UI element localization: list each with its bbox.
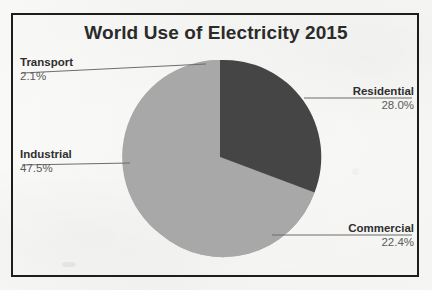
pie-label-commercial[interactable]: Commercial 22.4% (348, 222, 414, 249)
pie-label-residential-percent: 28.0% (353, 99, 414, 113)
pie-label-transport-category: Transport (20, 56, 73, 70)
pie-label-industrial[interactable]: Industrial 47.5% (20, 148, 72, 175)
pie-label-industrial-category: Industrial (20, 148, 72, 162)
pie-label-commercial-category: Commercial (348, 222, 414, 236)
pie-label-transport[interactable]: Transport 2.1% (20, 56, 73, 83)
pie-label-industrial-percent: 47.5% (20, 162, 72, 176)
pie-label-commercial-percent: 22.4% (348, 236, 414, 250)
pie-label-transport-percent: 2.1% (20, 70, 73, 84)
chart-screenshot: World Use of Electricity 2015 Transport … (0, 0, 432, 290)
pie-label-residential[interactable]: Residential 28.0% (353, 85, 414, 112)
pie-label-residential-category: Residential (353, 85, 414, 99)
